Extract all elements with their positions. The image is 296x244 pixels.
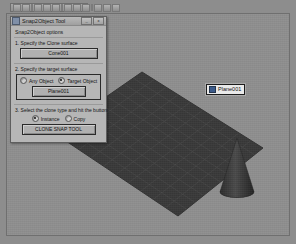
- radio-copy[interactable]: Copy: [65, 115, 86, 122]
- dialog-titlebar[interactable]: Snap2Object Tool _ x: [11, 17, 106, 26]
- toolbar-button-8[interactable]: [82, 4, 90, 12]
- radio-instance-dot[interactable]: [32, 115, 39, 122]
- radio-any-object-label: Any Object: [29, 78, 53, 84]
- target-surface-button[interactable]: Plane001: [32, 86, 86, 97]
- step-1-group: 1. Specify the Clone surface Cone001: [14, 37, 103, 62]
- step-2-label: 2. Specify the target surface: [15, 66, 103, 72]
- toolbar-button-10[interactable]: [103, 4, 111, 12]
- radio-copy-label: Copy: [74, 116, 86, 122]
- dialog-title: Snap2Object Tool: [22, 17, 81, 26]
- toolbar-button-3[interactable]: [34, 4, 42, 12]
- toolbar-button-9[interactable]: [94, 4, 102, 12]
- radio-instance[interactable]: Instance: [32, 115, 60, 122]
- window-controls[interactable]: _ x: [81, 17, 105, 25]
- radio-copy-dot[interactable]: [65, 115, 72, 122]
- object-name-label[interactable]: Plane001: [206, 84, 245, 95]
- snap2object-dialog[interactable]: Snap2Object Tool _ x Snap2Object options…: [10, 16, 107, 143]
- object-icon: [209, 86, 216, 93]
- minimize-button[interactable]: _: [81, 17, 92, 25]
- clone-surface-button[interactable]: Cone001: [20, 48, 98, 59]
- radio-any-object-dot[interactable]: [20, 77, 27, 84]
- toolbar-separator-2: [61, 4, 63, 11]
- radio-target-object[interactable]: Target Object: [58, 77, 97, 84]
- dialog-heading: Snap2Object options: [15, 29, 103, 35]
- object-label-text: Plane001: [218, 85, 241, 94]
- main-toolbar[interactable]: [10, 3, 88, 12]
- app-icon: [12, 17, 20, 25]
- radio-any-object[interactable]: Any Object: [20, 77, 53, 84]
- toolbar-button-7[interactable]: [73, 4, 81, 12]
- toolbar-button-5[interactable]: [52, 4, 60, 12]
- clone-snap-tool-button[interactable]: CLONE SNAP TOOL: [22, 124, 96, 135]
- toolbar-separator-1: [31, 4, 33, 11]
- toolbar-button-11[interactable]: [112, 4, 120, 12]
- toolbar-button-6[interactable]: [64, 4, 72, 12]
- step-3-label: 3. Select the clone type and hit the but…: [15, 107, 103, 113]
- toolbar-button-1[interactable]: [13, 4, 21, 12]
- toolbar-separator-3: [91, 4, 93, 11]
- step-1-label: 1. Specify the Clone surface: [15, 40, 103, 46]
- step-2-group: 2. Specify the target surface Any Object…: [14, 63, 103, 103]
- step-3-group: 3. Select the clone type and hit the but…: [14, 104, 103, 138]
- target-radio-row: Any Object Target Object: [19, 77, 98, 84]
- radio-instance-label: Instance: [41, 116, 60, 122]
- toolbar-button-4[interactable]: [43, 4, 51, 12]
- dialog-body: Snap2Object options 1. Specify the Clone…: [11, 26, 106, 142]
- toolbar-button-2[interactable]: [22, 4, 30, 12]
- radio-target-object-dot[interactable]: [58, 77, 65, 84]
- radio-target-object-label: Target Object: [67, 78, 97, 84]
- application-window: Plane001 Snap2Object Tool _ x Snap2Obj: [0, 0, 296, 244]
- target-surface-box: Any Object Target Object Plane001: [16, 74, 101, 100]
- clone-type-radio-row: Instance Copy: [14, 115, 103, 122]
- close-button[interactable]: x: [93, 17, 104, 25]
